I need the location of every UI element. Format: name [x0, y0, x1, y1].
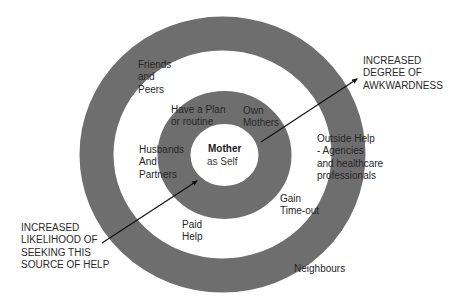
label-husbands-and-partners: Husbands And Partners — [139, 144, 184, 181]
label-neighbours: Neighbours — [294, 263, 345, 275]
annotation-increased-awkwardness: INCREASED DEGREE OF AWKWARDNESS — [363, 55, 443, 92]
label-friends-and-peers: Friends and Peers — [138, 59, 171, 96]
label-gain-time-out: Gain Time-out — [280, 193, 319, 218]
center-label-mother: Mother — [208, 143, 241, 155]
annotation-increased-likelihood: INCREASED LIKELIHOOD OF SEEKING THIS SOU… — [21, 222, 109, 272]
label-outside-help: Outside Help - Agencies and healthcare p… — [317, 133, 383, 182]
label-paid-help: Paid Help — [182, 219, 203, 244]
label-have-a-plan: Have a Plan or routine — [171, 104, 225, 129]
center-label-as-self: as Self — [207, 156, 238, 168]
label-own-mothers: Own Mothers — [243, 105, 279, 130]
concentric-support-diagram: Mother as Self Have a Plan or routine Ow… — [0, 0, 462, 302]
